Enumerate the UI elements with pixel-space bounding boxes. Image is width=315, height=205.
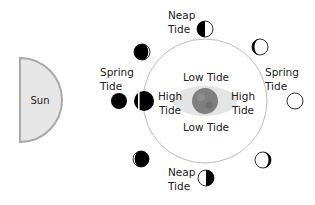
- moon-waning-crescent-icon: [133, 151, 149, 167]
- earth-group: [173, 86, 237, 116]
- sun: Sun: [20, 58, 62, 142]
- earth-texture: [197, 93, 205, 101]
- low-tide-bottom-label: Low Tide: [183, 121, 229, 133]
- moon-full-icon: [287, 93, 303, 109]
- high-tide-left-label-2: Tide: [158, 104, 181, 116]
- moon-new-outer-icon: [111, 93, 127, 109]
- high-tide-right-label-1: High: [231, 90, 255, 102]
- spring-tide-right-label-1: Spring: [265, 66, 299, 78]
- neap-tide-bottom-label-2: Tide: [167, 180, 190, 192]
- moon-third-quarter-icon: [198, 170, 214, 186]
- earth-texture: [206, 102, 213, 109]
- low-tide-top-label: Low Tide: [183, 71, 229, 83]
- earth: [192, 88, 218, 114]
- spring-tide-left-label-2: Tide: [99, 80, 122, 92]
- moon-waxing-crescent-icon: [134, 44, 150, 60]
- spring-tide-left-label-1: Spring: [100, 66, 134, 78]
- high-tide-left-label-1: High: [158, 90, 182, 102]
- sun-label: Sun: [30, 95, 49, 106]
- moon-new-orbit-icon: [134, 91, 154, 111]
- tides-diagram: Sun Low Tide Low Tide High Tide High Tid…: [0, 0, 315, 205]
- neap-tide-top-label-1: Neap: [168, 9, 196, 21]
- moon-first-quarter-icon: [197, 21, 213, 37]
- moon-waxing-gibbous-icon: [252, 39, 268, 55]
- high-tide-right-label-2: Tide: [231, 104, 254, 116]
- neap-tide-bottom-label-1: Neap: [168, 166, 196, 178]
- moon-waning-gibbous-icon: [255, 152, 271, 168]
- spring-tide-right-label-2: Tide: [264, 80, 287, 92]
- neap-tide-top-label-2: Tide: [167, 23, 190, 35]
